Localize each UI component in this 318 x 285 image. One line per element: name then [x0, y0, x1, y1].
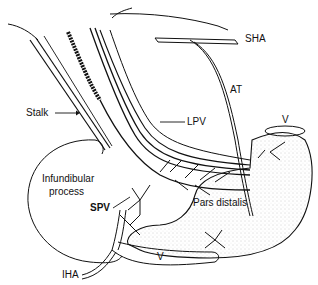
- label-stalk: Stalk: [26, 108, 48, 118]
- spv-leader: [113, 197, 130, 208]
- label-infundibular: Infundibular: [42, 174, 94, 184]
- pituitary-diagram: [0, 0, 318, 285]
- label-v-bottom: V: [157, 252, 164, 262]
- label-pars-distalis: Pars distalis: [193, 198, 247, 208]
- label-v-top: V: [282, 115, 289, 125]
- short-portal-vessel: [112, 210, 120, 250]
- label-sha: SHA: [245, 34, 266, 44]
- label-iha: IHA: [62, 270, 79, 280]
- label-at: AT: [230, 85, 242, 95]
- label-lpv: LPV: [187, 117, 206, 127]
- label-process: process: [49, 187, 84, 197]
- pars-distalis-region: [128, 132, 312, 258]
- stalk-vessel: [30, 40, 105, 150]
- label-spv: SPV: [90, 203, 110, 213]
